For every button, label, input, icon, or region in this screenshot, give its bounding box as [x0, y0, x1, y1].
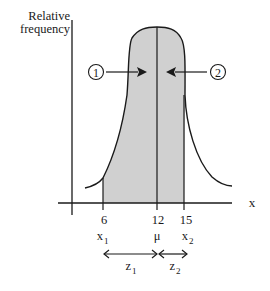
tick-subscript-x1: 1	[104, 236, 109, 246]
x-axis-label: x	[249, 195, 256, 210]
tick-value-mu: 12	[152, 213, 165, 227]
tick-value-x1: 6	[101, 213, 107, 227]
z1-subscript: 1	[132, 266, 137, 276]
tick-subscript-x2: 2	[189, 236, 194, 246]
z1-symbol: z	[125, 259, 131, 273]
callout-2-label: 2	[215, 66, 221, 80]
normal-distribution-diagram: 1 2 x 6 12 15 x 1 μ x 2 z 1 z 2 Relat	[0, 0, 270, 291]
tick-value-x2: 15	[180, 213, 193, 227]
callout-1-label: 1	[93, 66, 99, 80]
tick-symbol-x2: x	[182, 229, 189, 243]
z2-subscript: 2	[176, 266, 181, 276]
z2-symbol: z	[169, 259, 175, 273]
y-axis-label: Relative frequency	[20, 10, 70, 36]
tick-symbol-x1: x	[97, 229, 104, 243]
shaded-area	[103, 27, 185, 203]
tick-symbol-mu: μ	[154, 229, 161, 243]
y-axis-label-line2: frequency	[20, 23, 70, 36]
